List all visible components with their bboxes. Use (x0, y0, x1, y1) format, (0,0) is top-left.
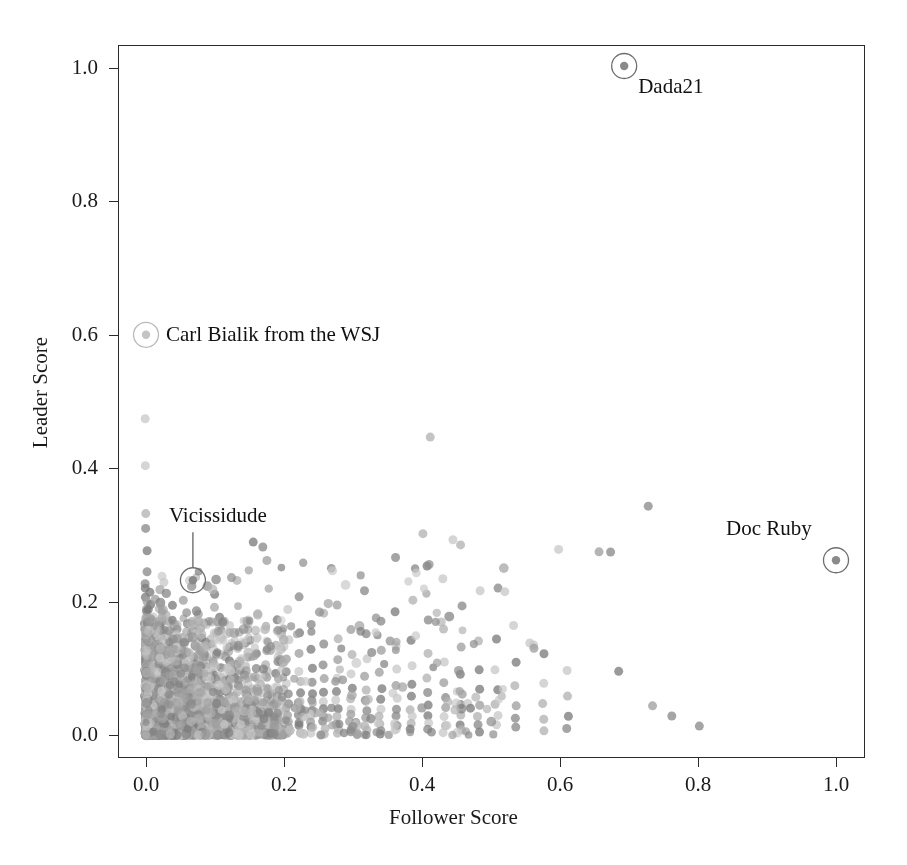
x-axis-title: Follower Score (0, 805, 907, 830)
x-axis-tick-label: 0.8 (648, 774, 748, 795)
x-axis-tick-label: 0.6 (510, 774, 610, 795)
x-axis-tick-label: 0.0 (96, 774, 196, 795)
x-axis-tick (560, 758, 561, 767)
y-axis-tick-label: 1.0 (30, 57, 98, 78)
annotation-label: Vicissidude (169, 505, 267, 526)
annotation-label: Carl Bialik from the WSJ (166, 324, 380, 345)
y-axis-tick-label: 0.2 (30, 591, 98, 612)
plot-frame (118, 45, 865, 758)
y-axis-tick (109, 735, 118, 736)
y-axis-tick (109, 68, 118, 69)
annotation-label: Doc Ruby (726, 518, 812, 539)
x-axis-tick-label: 0.2 (234, 774, 334, 795)
annotation-label: Dada21 (638, 76, 703, 97)
y-axis-tick (109, 468, 118, 469)
y-axis-tick (109, 602, 118, 603)
x-axis-tick (284, 758, 285, 767)
y-axis-tick (109, 201, 118, 202)
y-axis-tick-label: 0.0 (30, 724, 98, 745)
y-axis-tick-label: 0.8 (30, 190, 98, 211)
y-axis-title: Leader Score (28, 293, 53, 493)
x-axis-tick (698, 758, 699, 767)
scatter-plot-figure: 0.00.20.40.60.81.00.00.20.40.60.81.0 Dad… (0, 0, 907, 865)
x-axis-tick (422, 758, 423, 767)
x-axis-tick (146, 758, 147, 767)
x-axis-tick-label: 1.0 (786, 774, 886, 795)
x-axis-tick (836, 758, 837, 767)
y-axis-tick (109, 335, 118, 336)
x-axis-tick-label: 0.4 (372, 774, 472, 795)
